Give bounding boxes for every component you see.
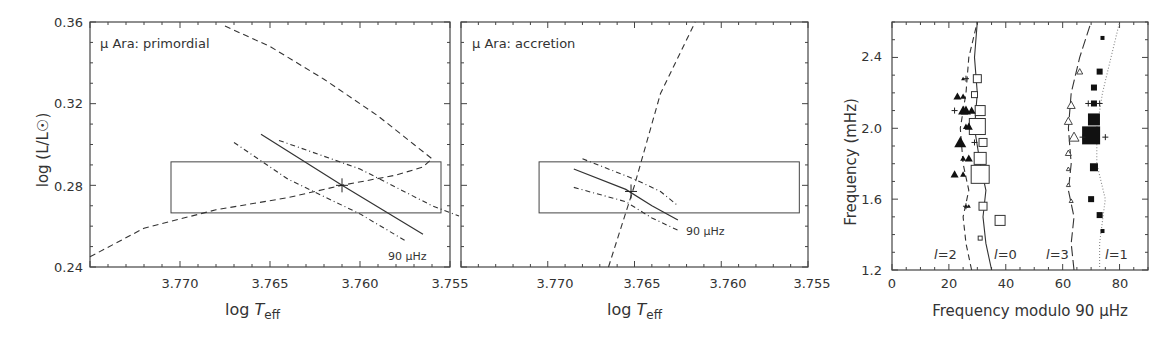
open-square-marker	[995, 215, 1005, 225]
series-line	[574, 169, 678, 220]
xtick-label: 3.760	[341, 276, 378, 291]
degree-label-l1: l=1	[1105, 247, 1128, 262]
ytick-label: 2.0	[861, 121, 882, 136]
open-square-marker	[971, 92, 977, 98]
plot-frame	[90, 22, 450, 267]
degree-label-l3: l=3	[1046, 247, 1069, 262]
ytick-label: 1.2	[861, 263, 882, 278]
open-triangle-marker	[1066, 167, 1070, 171]
open-triangle-marker	[1069, 132, 1079, 141]
panel-primordial	[90, 22, 459, 267]
figure: μ Ara: primordial μ Ara: accretion 90 μH…	[0, 0, 1173, 338]
ylabel-logL: log (L/L☉)	[34, 113, 52, 188]
filled-square-marker	[1082, 126, 1100, 144]
series-line	[234, 143, 405, 241]
series-line	[90, 26, 432, 257]
ylabel-frequency: Frequency (mHz)	[842, 98, 860, 226]
open-triangle-marker	[1064, 117, 1072, 124]
ytick-label: 0.28	[54, 179, 83, 194]
filled-square-marker	[1100, 229, 1104, 233]
xlabel-teff-p2: log Teff	[607, 300, 663, 322]
open-square-marker	[969, 119, 985, 135]
open-square-marker	[979, 138, 987, 146]
filled-triangle-marker	[951, 170, 959, 177]
xtick-label: 60	[1055, 276, 1072, 291]
degree-label-l0: l=0	[994, 247, 1017, 262]
panel-title-accretion: μ Ara: accretion	[472, 36, 575, 51]
open-triangle-marker	[1077, 69, 1083, 74]
panel-title-primordial: μ Ara: primordial	[100, 36, 210, 51]
panel-echelle	[892, 22, 1148, 270]
plot-frame	[461, 22, 808, 267]
xtick-label: 3.770	[536, 276, 573, 291]
xlabel-freq-mod: Frequency modulo 90 μHz	[932, 302, 1128, 320]
ytick-label: 0.32	[54, 96, 83, 111]
open-triangle-marker	[1066, 183, 1070, 187]
open-square-marker	[979, 202, 987, 210]
error-box	[539, 162, 799, 213]
filled-square-marker	[1090, 163, 1098, 171]
ytick-label: 0.36	[54, 15, 83, 30]
ytick-label: 2.4	[861, 49, 882, 64]
filled-triangle-marker	[960, 171, 966, 176]
open-square-marker	[978, 236, 982, 240]
series-line	[609, 22, 696, 267]
series-line	[574, 187, 678, 230]
open-square-marker	[975, 106, 985, 116]
open-square-marker	[973, 75, 981, 83]
filled-triangle-marker	[954, 136, 966, 147]
filled-square-marker	[1088, 196, 1094, 202]
filled-triangle-marker	[953, 92, 961, 99]
xtick-label: 3.765	[251, 276, 288, 291]
filled-square-marker	[1097, 212, 1103, 218]
annotation-90uhz-p2: 90 μHz	[686, 225, 725, 238]
xlabel-teff-p1: log Teff	[225, 300, 281, 322]
xtick-label: 3.755	[431, 276, 468, 291]
model-ridge	[1068, 22, 1091, 270]
filled-triangle-marker	[968, 107, 976, 114]
xtick-label: 3.755	[793, 276, 830, 291]
xtick-label: 3.770	[161, 276, 198, 291]
xtick-label: 20	[941, 276, 958, 291]
filled-triangle-marker	[965, 154, 973, 161]
filled-square-marker	[1100, 36, 1104, 40]
xtick-label: 40	[998, 276, 1015, 291]
ytick-label: 1.6	[861, 192, 882, 207]
filled-triangle-marker	[960, 93, 966, 98]
open-triangle-marker	[1067, 101, 1075, 108]
filled-square-marker	[1091, 100, 1097, 106]
open-square-marker	[971, 165, 989, 183]
filled-square-marker	[1088, 113, 1100, 125]
annotation-90uhz-p1: 90 μHz	[388, 250, 427, 263]
plot-frame	[892, 22, 1148, 270]
open-square-marker	[974, 152, 986, 164]
xtick-label: 0	[888, 276, 896, 291]
xtick-label: 80	[1112, 276, 1129, 291]
panel-accretion	[461, 22, 808, 267]
model-ridge	[1097, 22, 1120, 270]
filled-triangle-marker	[960, 155, 966, 160]
xtick-label: 3.760	[709, 276, 746, 291]
ytick-label: 0.24	[54, 260, 83, 275]
degree-label-l2: l=2	[934, 247, 957, 262]
filled-square-marker	[1097, 69, 1103, 75]
xtick-label: 3.765	[623, 276, 660, 291]
series-line	[279, 140, 459, 216]
filled-square-marker	[1091, 85, 1097, 91]
